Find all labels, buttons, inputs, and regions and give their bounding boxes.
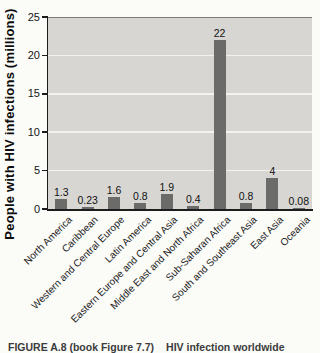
bar-value-label: 1.9 bbox=[145, 181, 189, 193]
bar-value-label: 22 bbox=[198, 27, 242, 39]
figure-caption-title: HIV infection worldwide bbox=[166, 341, 284, 353]
y-tick-label: 20 bbox=[8, 50, 40, 61]
y-tick-mark bbox=[42, 55, 47, 57]
bar bbox=[134, 203, 146, 209]
y-tick-mark bbox=[42, 93, 47, 95]
x-axis-line bbox=[47, 209, 313, 211]
y-tick-label: 0 bbox=[8, 204, 40, 215]
gridline bbox=[48, 55, 312, 57]
y-axis-line bbox=[47, 16, 49, 210]
figure-caption: FIGURE A.8 (book Figure 7.7)HIV infectio… bbox=[8, 341, 284, 353]
bar-value-label: 0.08 bbox=[277, 195, 320, 207]
bar bbox=[214, 40, 226, 209]
y-tick-label: 25 bbox=[8, 12, 40, 23]
bar-value-label: 0.8 bbox=[224, 190, 268, 202]
gridline bbox=[48, 93, 312, 95]
bar bbox=[82, 207, 94, 209]
bar bbox=[293, 208, 305, 209]
y-tick-label: 15 bbox=[8, 88, 40, 99]
y-tick-mark bbox=[42, 16, 47, 18]
bar bbox=[187, 206, 199, 209]
bar-value-label: 4 bbox=[250, 165, 294, 177]
y-tick-mark bbox=[42, 208, 47, 210]
bar-value-label: 0.4 bbox=[171, 193, 215, 205]
y-tick-mark bbox=[42, 131, 47, 133]
gridline bbox=[48, 131, 312, 133]
y-tick-label: 10 bbox=[8, 127, 40, 138]
bar bbox=[240, 203, 252, 209]
y-tick-mark bbox=[42, 170, 47, 172]
y-tick-label: 5 bbox=[8, 165, 40, 176]
figure-caption-label: FIGURE A.8 (book Figure 7.7) bbox=[8, 341, 154, 353]
